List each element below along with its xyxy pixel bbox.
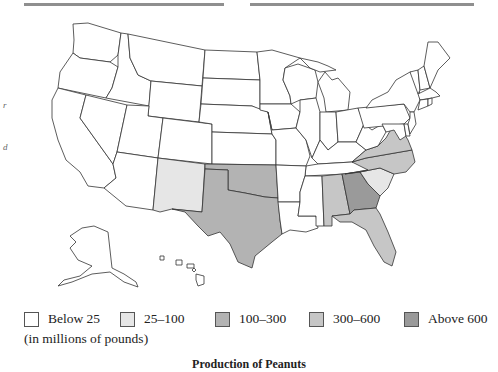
legend-label: Above 600: [428, 311, 488, 327]
legend-item-300-600: 300–600: [309, 310, 380, 328]
legend-item-above-600: Above 600: [404, 310, 488, 328]
state-rhode-island: [428, 98, 432, 106]
state-alaska: [58, 226, 138, 287]
legend-item-below-25: Below 25: [24, 310, 100, 328]
state-colorado: [158, 118, 212, 164]
legend-swatch: [215, 312, 230, 327]
state-connecticut: [418, 99, 428, 110]
state-michigan: [318, 72, 350, 112]
state-new-mexico: [153, 158, 205, 212]
legend-item-25-100: 25–100: [120, 310, 185, 328]
legend-label: 25–100: [144, 311, 185, 327]
state-maine: [424, 42, 450, 88]
legend-label: 300–600: [333, 311, 380, 327]
legend-swatch: [24, 312, 39, 327]
map-title: Production of Peanuts: [0, 357, 498, 372]
legend-swatch: [120, 312, 135, 327]
legend-item-100-300: 100–300: [215, 310, 286, 328]
legend-swatch: [309, 312, 324, 327]
state-hawaii: [160, 256, 204, 286]
units-note: (in millions of pounds): [24, 331, 148, 347]
state-north-dakota: [203, 50, 260, 80]
legend-swatch: [404, 312, 419, 327]
legend-label: 100–300: [239, 311, 286, 327]
legend: Below 25 25–100 100–300 300–600 Above 60…: [24, 310, 494, 330]
us-choropleth-map: [0, 0, 498, 300]
state-wyoming: [148, 81, 202, 122]
state-kansas: [212, 132, 276, 165]
state-florida: [332, 208, 396, 266]
legend-label: Below 25: [48, 311, 100, 327]
state-washington: [73, 23, 121, 62]
